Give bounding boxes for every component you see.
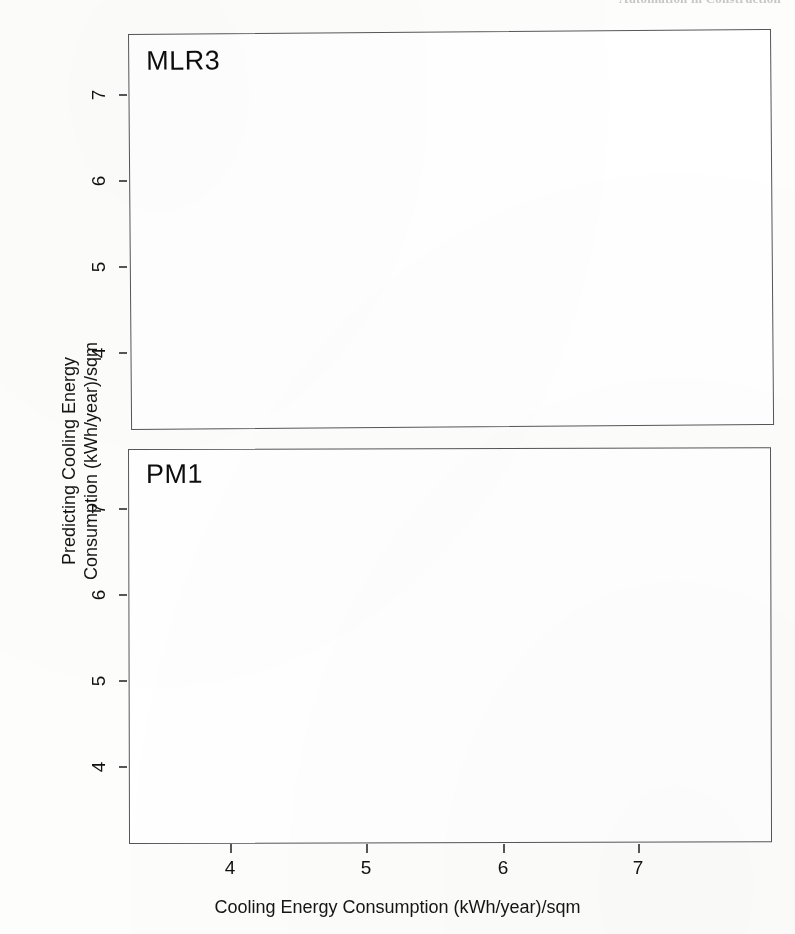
xtick-label-6: 6 (487, 857, 519, 879)
ytick-mark-bot-6 (119, 594, 127, 596)
ytick-label-top-7: 7 (88, 84, 110, 106)
x-axis-title: Cooling Energy Consumption (kWh/year)/sq… (0, 897, 795, 918)
ytick-mark-bot-4 (119, 766, 127, 768)
ytick-mark-top-6 (119, 180, 127, 182)
panel-mlr3-frame (128, 29, 774, 430)
xtick-mark-4 (230, 844, 232, 853)
xtick-label-7: 7 (622, 857, 654, 879)
panel-pm1-label: PM1 (146, 459, 203, 490)
xtick-mark-7 (638, 844, 640, 853)
ytick-mark-top-5 (119, 266, 127, 268)
panel-pm1-frame (128, 447, 772, 844)
ytick-mark-top-4 (119, 352, 127, 354)
ytick-mark-bot-7 (119, 508, 127, 510)
ytick-mark-top-7 (119, 94, 127, 96)
xtick-mark-6 (503, 844, 505, 853)
ytick-mark-bot-5 (119, 680, 127, 682)
panel-pm1: PM1 (128, 447, 772, 844)
xtick-label-4: 4 (214, 857, 246, 879)
xtick-mark-5 (366, 844, 368, 853)
panel-mlr3: MLR3 (128, 29, 774, 430)
scatter-figure: MLR3 7 6 5 4 (0, 0, 795, 934)
panel-mlr3-label: MLR3 (146, 45, 220, 77)
y-axis-title: Predicting Cooling Energy Consumption (k… (58, 141, 102, 781)
figure-page: Automation in Construction (0, 0, 795, 934)
xtick-label-5: 5 (350, 857, 382, 879)
